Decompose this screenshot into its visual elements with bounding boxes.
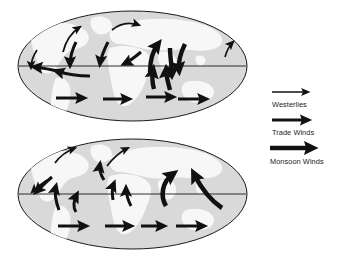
- legend-label-monsoon-winds: Monsoon Winds: [270, 157, 324, 166]
- wind-arrow-trade: [112, 183, 114, 200]
- wind-pattern-figure: Westerlies Trade Winds Monsoon Winds: [0, 0, 351, 267]
- legend-label-trade-winds: Trade Winds: [272, 128, 314, 137]
- northern-winter-map: [18, 139, 247, 249]
- wind-arrow-monsoon: [152, 70, 154, 89]
- northern-summer-map: [18, 11, 247, 121]
- legend-label-westerlies: Westerlies: [272, 100, 307, 109]
- wind-arrow-monsoon: [170, 48, 172, 74]
